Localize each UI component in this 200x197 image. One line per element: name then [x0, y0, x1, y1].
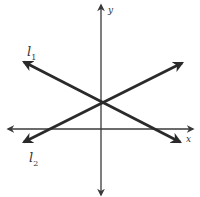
y-axis-label-text: y — [108, 5, 113, 15]
line-l2-label-sub: 2 — [33, 159, 38, 168]
line-l1-label: l1 — [27, 44, 36, 62]
line-l2-label: l2 — [29, 150, 38, 168]
x-axis-label-text: x — [186, 134, 191, 144]
y-axis-label: y — [108, 5, 113, 15]
x-axis-label: x — [186, 134, 191, 144]
line-l1-label-sub: 1 — [31, 53, 36, 62]
